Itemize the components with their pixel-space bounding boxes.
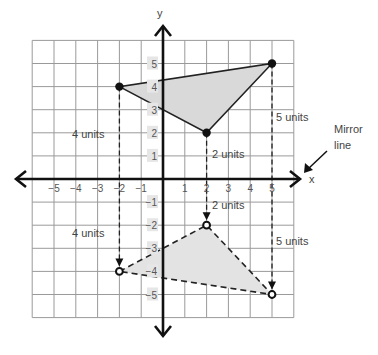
- y-tick-label: −3: [146, 243, 158, 254]
- y-tick-label: 1: [151, 151, 157, 162]
- image-vertex: [269, 291, 276, 298]
- original-vertex: [115, 82, 123, 90]
- distance-label: 5 units: [276, 235, 309, 247]
- x-tick-label: 1: [182, 183, 188, 194]
- x-tick-label: −2: [114, 183, 126, 194]
- x-tick-label: −4: [70, 183, 82, 194]
- x-tick-label: 3: [226, 183, 232, 194]
- mirror-label-line1: Mirror: [334, 123, 363, 135]
- mirror-label-line2: line: [334, 139, 351, 151]
- distance-label: 4 units: [72, 227, 105, 239]
- mirror-arrowhead-icon: [304, 163, 313, 173]
- y-tick-label: −1: [146, 197, 158, 208]
- y-tick-label: 3: [151, 105, 157, 116]
- image-vertex: [203, 222, 210, 229]
- y-tick-label: −2: [146, 220, 158, 231]
- y-tick-label: −5: [146, 290, 158, 301]
- y-tick-label: −4: [146, 266, 158, 277]
- x-tick-label: 2: [204, 183, 210, 194]
- original-vertex: [268, 59, 276, 67]
- reflected-triangle: [119, 225, 272, 294]
- arrowhead-icon: [268, 282, 276, 290]
- image-vertex: [116, 268, 123, 275]
- y-axis-label: y: [157, 7, 163, 19]
- x-tick-label: 5: [269, 183, 275, 194]
- arrowhead-icon: [203, 212, 211, 220]
- y-tick-label: 5: [151, 59, 157, 70]
- mirror-arrow: [308, 151, 327, 169]
- reflection-diagram: −5−4−3−2−11234554321−1−2−3−4−5 4 units4 …: [0, 0, 378, 355]
- x-tick-label: 4: [247, 183, 253, 194]
- x-axis-label: x: [309, 173, 315, 185]
- original-vertex: [202, 129, 210, 137]
- mirror-line-callout: Mirror line: [304, 123, 363, 173]
- distance-label: 4 units: [72, 128, 105, 140]
- arrowhead-icon: [115, 258, 123, 266]
- y-tick-label: 4: [151, 82, 157, 93]
- original-triangle: [119, 64, 272, 133]
- distance-label: 5 units: [276, 111, 309, 123]
- x-tick-label: −3: [92, 183, 104, 194]
- y-tick-label: 2: [151, 128, 157, 139]
- distance-label: 2 units: [212, 199, 245, 211]
- x-tick-label: −5: [48, 183, 60, 194]
- distance-label: 2 units: [212, 148, 245, 160]
- x-tick-label: −1: [135, 183, 147, 194]
